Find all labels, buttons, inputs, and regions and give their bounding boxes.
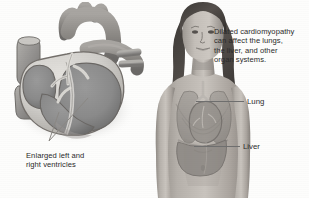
left-eye [192, 30, 198, 33]
organ-overlay [177, 82, 231, 176]
organ-systems-note: Dilated cardiomyopathy can affect the lu… [214, 27, 306, 65]
callout-liver: Liver [243, 142, 260, 151]
heart-in-situ [189, 101, 222, 143]
liver-leader-line [194, 146, 240, 147]
medical-illustration-figure: Dilated cardiomyopathy can affect the lu… [0, 0, 309, 198]
ventricles-caption: Enlarged left and right ventricles [26, 151, 136, 170]
heart-diagram [2, 2, 152, 147]
lung-leader-line [196, 101, 244, 102]
callout-lung: Lung [247, 97, 264, 106]
